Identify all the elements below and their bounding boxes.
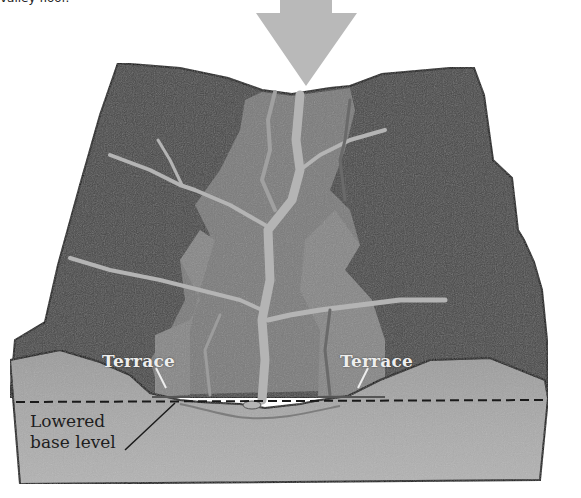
base-level-label-line1: Lowered [30,412,105,431]
stream-cross-section [243,401,261,409]
terrace-right-label: Terrace [340,351,413,371]
base-level-label-line2: base level [30,433,116,452]
terrace-left-label: Terrace [102,351,175,371]
downcutting-arrow [256,0,357,86]
top-text-fragment: valley floor. [0,0,69,5]
valley-terrace-diagram: valley floor. [0,0,581,498]
